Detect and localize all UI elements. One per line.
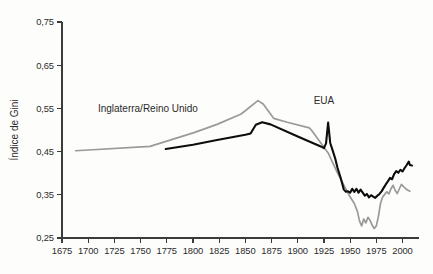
x-tick-label: 1950 bbox=[340, 245, 360, 256]
x-tick-label: 1875 bbox=[261, 245, 281, 256]
x-tick-label: 1700 bbox=[78, 245, 98, 256]
y-tick-label: 0,25 bbox=[36, 232, 54, 243]
series-label-inglaterra-reino-unido: Inglaterra/Reino Unido bbox=[98, 103, 198, 114]
y-tick-label: 0,75 bbox=[36, 16, 54, 27]
series-label-eua: EUA bbox=[314, 95, 335, 106]
series-group bbox=[76, 101, 412, 229]
x-tick-label: 1775 bbox=[157, 245, 177, 256]
x-tick-label: 1925 bbox=[314, 245, 334, 256]
x-axis-ticks: 1675170017251750177518001825185018751900… bbox=[52, 238, 413, 256]
y-tick-label: 0,55 bbox=[36, 103, 54, 114]
x-tick-label: 1850 bbox=[235, 245, 255, 256]
x-tick-label: 1750 bbox=[130, 245, 150, 256]
y-tick-label: 0,35 bbox=[36, 189, 54, 200]
x-tick-label: 1900 bbox=[288, 245, 308, 256]
y-tick-label: 0,65 bbox=[36, 60, 54, 71]
series-line-inglaterra-reino-unido bbox=[76, 101, 410, 229]
x-axis-group: 1675170017251750177518001825185018751900… bbox=[52, 238, 419, 256]
x-tick-label: 1675 bbox=[52, 245, 72, 256]
x-tick-label: 2000 bbox=[392, 245, 412, 256]
y-axis-group: 0,250,350,450,550,650,75 bbox=[36, 16, 62, 243]
x-tick-label: 1825 bbox=[209, 245, 229, 256]
chart-canvas: 0,250,350,450,550,650,75 167517001725175… bbox=[0, 0, 433, 274]
y-tick-label: 0,45 bbox=[36, 146, 54, 157]
x-tick-label: 1725 bbox=[104, 245, 124, 256]
x-tick-label: 1800 bbox=[183, 245, 203, 256]
y-axis-title: Índice de Gini bbox=[8, 99, 20, 160]
gini-index-chart: 0,250,350,450,550,650,75 167517001725175… bbox=[0, 0, 433, 274]
series-annotations: Inglaterra/Reino Unido EUA bbox=[98, 95, 335, 114]
y-axis-ticks: 0,250,350,450,550,650,75 bbox=[36, 16, 62, 243]
series-line-eua bbox=[166, 122, 412, 198]
x-tick-label: 1975 bbox=[366, 245, 386, 256]
